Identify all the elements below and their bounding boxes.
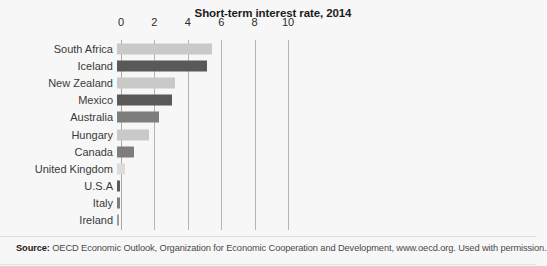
bar-row: U.S.A — [0, 178, 536, 195]
bar-track — [117, 126, 536, 143]
category-label: Ireland — [0, 214, 117, 226]
source-footnote: Source: OECD Economic Outlook, Organizat… — [16, 243, 528, 253]
bar-track — [117, 109, 536, 126]
category-label: Australia — [0, 111, 117, 123]
category-label: U.S.A — [0, 180, 117, 192]
x-tick-label: 4 — [185, 16, 191, 28]
bar-row: Mexico — [0, 92, 536, 109]
bar-track — [117, 212, 536, 229]
bar-rows: South AfricaIcelandNew ZealandMexicoAust… — [0, 40, 536, 230]
bar — [117, 95, 172, 106]
bar-track — [117, 57, 536, 74]
category-label: Hungary — [0, 129, 117, 141]
x-tick-label: 8 — [252, 16, 258, 28]
category-label: Iceland — [0, 60, 117, 72]
bar-row: New Zealand — [0, 74, 536, 91]
bar-track — [117, 92, 536, 109]
category-label: Mexico — [0, 94, 117, 106]
bar-track — [117, 160, 536, 177]
bar-row: Ireland — [0, 212, 536, 229]
category-label: Canada — [0, 146, 117, 158]
bar — [117, 163, 125, 174]
chart-title: Short-term interest rate, 2014 — [0, 7, 536, 19]
bar-row: Canada — [0, 143, 536, 160]
bar — [117, 198, 120, 209]
bar — [117, 60, 207, 71]
category-label: New Zealand — [0, 77, 117, 89]
bar-track — [117, 178, 536, 195]
footnote-divider — [0, 236, 536, 237]
bar-row: United Kingdom — [0, 160, 536, 177]
bar — [117, 112, 159, 123]
source-text: OECD Economic Outlook, Organization for … — [50, 243, 547, 253]
bar-row: Iceland — [0, 57, 536, 74]
bar — [117, 43, 212, 54]
x-tick-label: 0 — [118, 16, 124, 28]
bar — [117, 215, 119, 226]
bar-track — [117, 143, 536, 160]
category-label: United Kingdom — [0, 163, 117, 175]
bar — [117, 146, 134, 157]
bar — [117, 77, 175, 88]
bar — [117, 181, 120, 192]
x-tick-label: 10 — [282, 16, 294, 28]
category-label: Italy — [0, 197, 117, 209]
bar — [117, 129, 149, 140]
category-label: South Africa — [0, 43, 117, 55]
bar-row: Hungary — [0, 126, 536, 143]
x-tick-label: 2 — [151, 16, 157, 28]
bar-track — [117, 40, 536, 57]
bar-row: Italy — [0, 195, 536, 212]
bar-track — [117, 195, 536, 212]
bar-row: Australia — [0, 109, 536, 126]
bar-track — [117, 74, 536, 91]
x-tick-label: 6 — [218, 16, 224, 28]
bar-row: South Africa — [0, 40, 536, 57]
source-label: Source: — [16, 243, 50, 253]
bottom-divider — [0, 264, 536, 265]
